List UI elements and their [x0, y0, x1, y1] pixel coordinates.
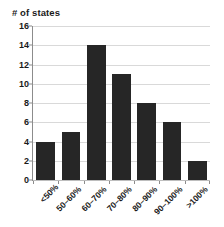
chart-title: # of states: [12, 7, 60, 18]
y-axis-tick-label: 16: [19, 22, 29, 31]
x-axis-tick-mark: [159, 181, 160, 184]
x-axis-tick-mark: [109, 181, 110, 184]
y-axis-tick-label: 14: [19, 41, 29, 50]
x-axis-tick-mark: [84, 181, 85, 184]
bar: [163, 122, 182, 180]
x-axis-tick-mark: [185, 181, 186, 184]
x-axis-tick-labels: <50%50–60%60–70%70–80%80–90%90–100%>100%: [33, 185, 210, 227]
bar: [112, 74, 131, 180]
plot-area: [33, 26, 210, 180]
y-axis-tick-labels: 0246810121416: [0, 26, 29, 180]
bar-chart: # of states 0246810121416 <50%50–60%60–7…: [0, 0, 224, 227]
bar: [62, 132, 81, 180]
x-axis-tick-mark: [134, 181, 135, 184]
y-axis-tick-label: 12: [19, 60, 29, 69]
x-axis-tick-mark: [209, 181, 210, 184]
bar: [36, 142, 55, 181]
x-axis-tick-label: <50%: [38, 185, 57, 204]
bars: [33, 26, 210, 180]
y-axis-tick-label: 10: [19, 79, 29, 88]
x-axis-tick-mark: [58, 181, 59, 184]
bar: [188, 161, 207, 180]
bar: [87, 45, 106, 180]
x-axis-tick-mark: [33, 181, 34, 184]
bar: [137, 103, 156, 180]
